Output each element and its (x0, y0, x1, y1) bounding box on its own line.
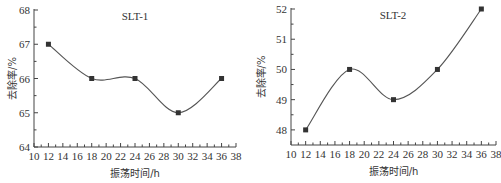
x-tick-label: 16 (72, 150, 84, 162)
y-tick-label: 49 (276, 94, 288, 106)
x-tick-label: 30 (432, 148, 444, 160)
x-tick-label: 24 (388, 148, 400, 160)
x-tick-label: 10 (29, 150, 41, 162)
x-tick-label: 32 (187, 150, 198, 162)
data-point-marker (46, 42, 51, 47)
y-tick-label: 67 (19, 38, 31, 50)
x-tick-label: 38 (231, 150, 243, 162)
chart-canvas: 6465666768101214161820222426283032343638… (0, 0, 501, 183)
x-axis-label: 振荡时间/h (369, 165, 419, 177)
x-tick-label: 14 (315, 148, 327, 160)
data-point-marker (133, 76, 138, 81)
x-tick-label: 22 (115, 150, 126, 162)
y-tick-label: 48 (276, 124, 288, 136)
chart-panel-1: 6465666768101214161820222426283032343638… (6, 4, 242, 179)
x-tick-label: 30 (173, 150, 185, 162)
data-point-marker (219, 76, 224, 81)
chart-panel-2: 4849505152101214161820222426283032343638… (255, 3, 501, 177)
data-point-marker (479, 7, 484, 12)
x-tick-label: 28 (158, 150, 170, 162)
data-point-marker (347, 67, 352, 72)
x-tick-label: 20 (359, 148, 371, 160)
x-axis-label: 振荡时间/h (110, 167, 160, 179)
y-tick-label: 51 (276, 33, 287, 45)
data-point-marker (303, 127, 308, 132)
x-tick-label: 22 (373, 148, 384, 160)
x-tick-label: 18 (86, 150, 98, 162)
y-tick-label: 68 (19, 4, 31, 16)
x-tick-label: 18 (344, 148, 356, 160)
y-axis-label: 去除率/% (6, 57, 18, 100)
x-tick-label: 36 (216, 150, 228, 162)
y-tick-label: 66 (19, 73, 31, 85)
x-tick-label: 36 (476, 148, 488, 160)
x-tick-label: 10 (286, 148, 298, 160)
chart-title: SLT-2 (380, 9, 407, 21)
x-tick-label: 14 (57, 150, 69, 162)
data-point-marker (435, 67, 440, 72)
x-tick-label: 20 (101, 150, 113, 162)
x-tick-label: 12 (43, 150, 54, 162)
y-tick-label: 65 (19, 107, 31, 119)
data-line (306, 9, 482, 130)
data-point-marker (391, 97, 396, 102)
x-tick-label: 24 (130, 150, 142, 162)
y-axis-label: 去除率/% (255, 56, 267, 99)
x-tick-label: 26 (144, 150, 156, 162)
chart-title: SLT-1 (122, 10, 149, 22)
data-point-marker (176, 110, 181, 115)
x-tick-label: 32 (447, 148, 458, 160)
x-tick-label: 38 (491, 148, 501, 160)
data-point-marker (89, 76, 94, 81)
x-tick-label: 34 (461, 148, 473, 160)
x-tick-label: 12 (300, 148, 311, 160)
x-tick-label: 34 (202, 150, 214, 162)
y-tick-label: 52 (276, 3, 287, 15)
x-tick-label: 28 (417, 148, 429, 160)
x-tick-label: 26 (403, 148, 415, 160)
x-tick-label: 16 (329, 148, 341, 160)
y-tick-label: 50 (276, 63, 288, 75)
